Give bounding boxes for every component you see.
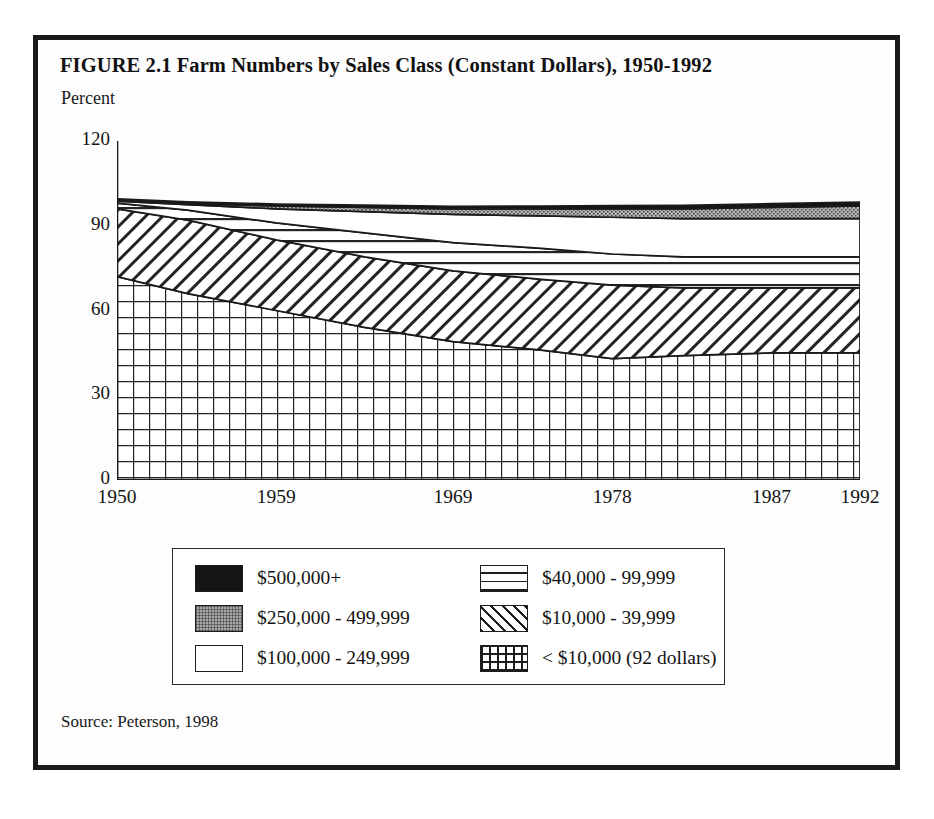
y-tick-label: 120: [82, 128, 111, 150]
legend-item[interactable]: $40,000 - 99,999: [480, 559, 717, 597]
chart-legend: $500,000+$250,000 - 499,999$100,000 - 24…: [172, 548, 725, 685]
legend-item[interactable]: $250,000 - 499,999: [195, 599, 410, 637]
x-tick-label: 1987: [752, 486, 791, 508]
legend-item[interactable]: $500,000+: [195, 559, 410, 597]
page-title: FIGURE 2.1 Farm Numbers by Sales Class (…: [60, 54, 712, 77]
x-tick-label: 1978: [593, 486, 632, 508]
legend-label: $500,000+: [257, 567, 341, 589]
legend-item[interactable]: < $10,000 (92 dollars): [480, 639, 717, 677]
legend-swatch-diagonal-hatch-icon: [480, 605, 528, 632]
legend-label: $250,000 - 499,999: [257, 607, 410, 629]
legend-swatch-gray-stipple-icon: [195, 605, 243, 632]
legend-swatch-grid-icon: [480, 645, 528, 672]
y-axis-unit-label: Percent: [61, 88, 115, 109]
legend-swatch-white-icon: [195, 645, 243, 672]
source-note: Source: Peterson, 1998: [61, 712, 218, 732]
x-tick-label: 1959: [257, 486, 296, 508]
legend-column-right: $40,000 - 99,999$10,000 - 39,999< $10,00…: [480, 559, 717, 679]
x-tick-label: 1950: [98, 486, 137, 508]
x-axis-labels: 195019591969197819871992: [117, 486, 877, 518]
legend-label: < $10,000 (92 dollars): [542, 647, 717, 669]
x-tick-label: 1992: [841, 486, 880, 508]
legend-swatch-horizontal-lines-icon: [480, 565, 528, 592]
legend-column-left: $500,000+$250,000 - 499,999$100,000 - 24…: [195, 559, 410, 679]
legend-swatch-solid-black-icon: [195, 565, 243, 592]
plot-area: [117, 141, 860, 480]
y-tick-label: 30: [91, 382, 110, 404]
legend-item[interactable]: $10,000 - 39,999: [480, 599, 717, 637]
y-tick-label: 60: [91, 298, 110, 320]
legend-label: $10,000 - 39,999: [542, 607, 675, 629]
figure-frame: FIGURE 2.1 Farm Numbers by Sales Class (…: [33, 35, 900, 770]
legend-label: $40,000 - 99,999: [542, 567, 675, 589]
legend-item[interactable]: $100,000 - 249,999: [195, 639, 410, 677]
area-bands: [117, 199, 860, 480]
legend-label: $100,000 - 249,999: [257, 647, 410, 669]
x-tick-label: 1969: [434, 486, 473, 508]
y-axis-labels: 1209060300: [38, 141, 110, 480]
y-tick-label: 90: [91, 213, 110, 235]
stacked-area-chart: [117, 141, 860, 480]
